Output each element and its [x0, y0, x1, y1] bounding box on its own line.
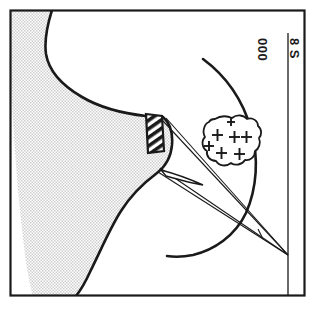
- axis-name-label: 8 S: [287, 38, 302, 59]
- axis-value-label: 000: [255, 38, 270, 61]
- figure-panel: 000 8 S: [0, 0, 315, 309]
- hatched-barrier: [146, 114, 164, 153]
- sight-line-lower: [160, 168, 288, 255]
